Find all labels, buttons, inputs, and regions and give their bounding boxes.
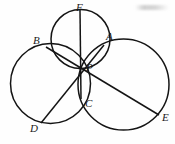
point-label-C: C — [85, 98, 92, 109]
chord-F-to-C — [80, 10, 81, 99]
point-label-D: D — [30, 123, 38, 134]
circle-right — [78, 39, 169, 130]
point-label-E: E — [162, 112, 169, 123]
chord-B-to-E — [46, 47, 159, 115]
point-label-P: P — [86, 62, 93, 73]
point-P-dot — [78, 66, 81, 69]
point-label-B: B — [33, 35, 40, 46]
chord-A-to-D — [41, 45, 104, 123]
geometry-figure: F A B P C D E — [0, 0, 175, 144]
scan-smudge-artifact — [135, 5, 169, 10]
point-label-F: F — [76, 2, 83, 13]
point-label-A: A — [106, 31, 113, 42]
